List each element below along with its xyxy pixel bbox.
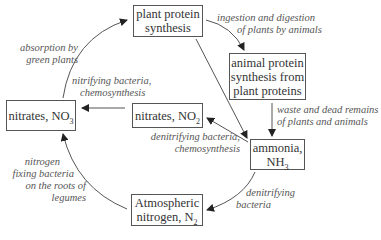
node-plant-protein-synthesis: plant protein synthesis	[133, 5, 203, 37]
node-atmospheric-nitrogen: Atmospheric nitrogen, N2	[131, 194, 203, 226]
node-label: plant protein	[134, 7, 202, 21]
node-nitrates-no3: nitrates, NO3	[6, 100, 76, 131]
edge-label-waste: waste and dead remains of plants and ani…	[277, 104, 378, 128]
edge-label-nitrifying: nitrifying bacteria, chemosynthesis	[72, 75, 151, 99]
node-label: nitrates, NO3	[7, 109, 75, 123]
node-label: synthesis	[134, 21, 202, 35]
node-label: synthesis from	[230, 70, 305, 84]
node-label: plant proteins	[230, 84, 305, 98]
edge-label-nitrogen-fixing: nitrogen fixing bacteria on the roots of…	[6, 156, 86, 204]
edge-label-ingestion: ingestion and digestion of plants by ani…	[217, 12, 322, 36]
node-animal-protein-synthesis: animal protein synthesis from plant prot…	[229, 53, 306, 100]
edge-label-absorption: absorption by green plants	[18, 42, 78, 66]
node-label: animal protein	[230, 56, 305, 70]
edge-label-denitrifying-chemo: denitrifying bacteria, chemosynthesis	[136, 131, 240, 155]
node-ammonia: ammonia, NH3	[250, 139, 305, 170]
node-label: Atmospheric	[132, 196, 202, 210]
node-label: nitrates, NO2	[133, 109, 202, 123]
node-label: nitrogen, N2	[132, 210, 202, 224]
node-label: NH3	[251, 155, 304, 169]
edge-label-denitrifying: denitrifying bacteria	[236, 187, 295, 211]
node-label: ammonia,	[251, 141, 304, 155]
node-nitrates-no2: nitrates, NO2	[132, 103, 203, 128]
